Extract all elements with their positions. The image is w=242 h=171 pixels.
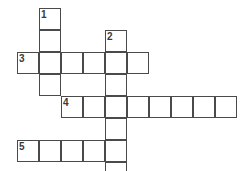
crossword-cell[interactable] — [105, 118, 127, 140]
crossword-cell[interactable]: 2 — [105, 30, 127, 52]
crossword-cell[interactable] — [83, 52, 105, 74]
crossword-cell[interactable] — [39, 140, 61, 162]
crossword-cell[interactable] — [39, 30, 61, 52]
clue-number-5: 5 — [19, 141, 25, 152]
crossword-cell[interactable] — [193, 96, 215, 118]
crossword-cell[interactable] — [105, 74, 127, 96]
clue-number-2: 2 — [107, 31, 113, 42]
clue-number-3: 3 — [19, 53, 25, 64]
crossword-cell[interactable] — [215, 96, 237, 118]
crossword-cell[interactable] — [149, 96, 171, 118]
crossword-cell[interactable] — [171, 96, 193, 118]
crossword-puzzle-grid: 12345 — [0, 0, 242, 171]
crossword-cell[interactable] — [127, 96, 149, 118]
crossword-cell[interactable] — [83, 96, 105, 118]
crossword-cell[interactable] — [105, 52, 127, 74]
clue-number-4: 4 — [63, 97, 69, 108]
crossword-cell[interactable] — [105, 140, 127, 162]
clue-number-1: 1 — [41, 9, 47, 20]
crossword-cell[interactable]: 5 — [17, 140, 39, 162]
crossword-cell[interactable] — [61, 52, 83, 74]
crossword-cell[interactable] — [39, 52, 61, 74]
crossword-cell[interactable]: 4 — [61, 96, 83, 118]
crossword-cell[interactable]: 1 — [39, 8, 61, 30]
crossword-cell[interactable] — [127, 52, 149, 74]
crossword-cell[interactable] — [105, 162, 127, 171]
crossword-cell[interactable] — [61, 140, 83, 162]
crossword-cell[interactable]: 3 — [17, 52, 39, 74]
crossword-cell[interactable] — [105, 96, 127, 118]
crossword-cell[interactable] — [83, 140, 105, 162]
crossword-cell[interactable] — [39, 74, 61, 96]
